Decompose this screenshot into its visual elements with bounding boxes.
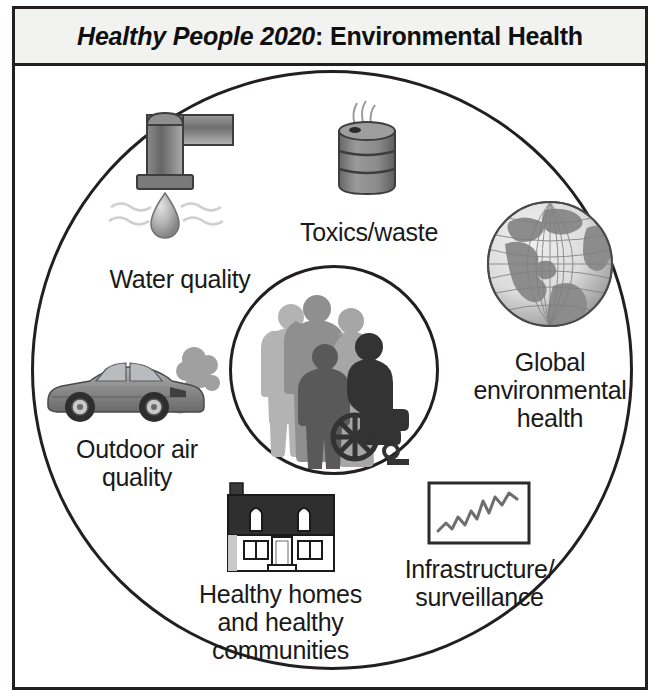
node-toxics-waste: Toxics/waste [279, 99, 459, 246]
car-exhaust-icon [42, 339, 232, 429]
node-label-infrastructure-surveillance: Infrastructure/ surveillance [397, 555, 562, 611]
line-chart-icon [425, 479, 535, 547]
globe-icon [475, 192, 625, 342]
node-center-people [259, 289, 409, 469]
people-group-silhouette-icon [259, 289, 409, 469]
house-icon [206, 477, 356, 572]
faucet-water-drop-icon [105, 103, 255, 263]
page-title: Healthy People 2020: Environmental Healt… [77, 22, 583, 51]
diagram-title-bar: Healthy People 2020: Environmental Healt… [15, 9, 645, 66]
node-label-toxics-waste: Toxics/waste [279, 218, 459, 246]
node-healthy-homes: Healthy homes and healthy communities [173, 477, 388, 664]
node-infrastructure-surveillance: Infrastructure/ surveillance [397, 479, 562, 611]
title-rest: : Environmental Health [315, 22, 583, 50]
environmental-health-diagram: Healthy People 2020: Environmental Healt… [12, 6, 648, 690]
node-outdoor-air-quality: Outdoor air quality [37, 339, 237, 491]
node-label-global-environmental-health: Global environmental health [455, 348, 645, 432]
node-global-environmental-health: Global environmental health [455, 192, 645, 432]
title-emphasis: Healthy People 2020 [77, 22, 315, 50]
waste-barrel-icon [299, 99, 439, 214]
node-label-water-quality: Water quality [85, 265, 275, 293]
node-water-quality: Water quality [85, 103, 275, 293]
node-label-healthy-homes: Healthy homes and healthy communities [173, 580, 388, 664]
